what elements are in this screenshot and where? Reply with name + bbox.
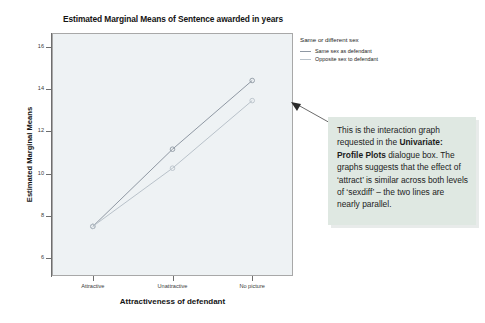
legend: Same or different sex Same sex as defend… (300, 36, 425, 62)
y-tick-label: 14 (0, 85, 44, 91)
y-tick-label: 12 (0, 127, 44, 133)
callout-line-3-bold: Profile Plots (337, 150, 386, 160)
data-point-marker (250, 98, 255, 103)
chart-title: Estimated Marginal Means of Sentence awa… (52, 14, 294, 24)
x-tick-label: Attractive (81, 283, 104, 289)
x-tick-label: No picture (239, 283, 265, 289)
legend-title: Same or different sex (300, 36, 425, 43)
y-tick-label: 10 (0, 170, 44, 176)
screenshot-root: Estimated Marginal Means of Sentence awa… (0, 0, 485, 323)
legend-items: Same sex as defendantOpposite sex to def… (300, 48, 425, 62)
legend-item: Opposite sex to defendant (300, 56, 425, 62)
callout-box: This is the interaction graph requested … (328, 117, 476, 225)
y-tick-label: 8 (0, 212, 44, 218)
series-line (93, 81, 252, 227)
legend-item: Same sex as defendant (300, 48, 425, 54)
x-tick-mark (252, 276, 253, 281)
x-tick-mark (93, 276, 94, 281)
callout-text: This is the interaction graph requested … (337, 124, 468, 211)
callout-line-7: ‘sexdiff’ – the two lines are (346, 187, 444, 197)
legend-line-swatch-icon (300, 59, 311, 60)
callout-line-3-post: dialogue box. (386, 150, 438, 160)
y-tick-label: 6 (0, 254, 44, 260)
callout-line-2-bold: Univariate: (399, 137, 442, 147)
legend-item-label: Same sex as defendant (315, 48, 372, 54)
x-axis-title: Attractiveness of defendant (52, 297, 293, 306)
plot-area (52, 33, 293, 276)
legend-line-swatch-icon (300, 51, 311, 52)
legend-item-label: Opposite sex to defendant (315, 56, 378, 62)
callout-line-1: This is the interaction graph (337, 125, 440, 135)
data-series-layer (53, 34, 292, 275)
y-axis-title: Estimated Marginal Means (25, 80, 34, 230)
y-tick-label: 16 (0, 43, 44, 49)
callout-line-2-pre: requested in the (337, 137, 399, 147)
x-tick-mark (173, 276, 174, 281)
callout-line-8: nearly parallel. (337, 199, 391, 209)
series-line (93, 101, 252, 227)
x-tick-label: Unattractive (158, 283, 188, 289)
